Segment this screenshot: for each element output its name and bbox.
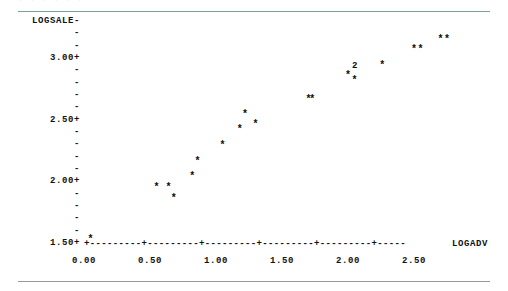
y-tick-minor: - (0, 189, 80, 199)
data-point: * (418, 45, 424, 55)
y-tick-minor: - (0, 226, 80, 236)
data-point: * (88, 235, 94, 245)
y-tick-minor: - (0, 164, 80, 174)
top-divider-rule (18, 11, 490, 12)
y-tick-minor: - (0, 201, 80, 211)
data-point: * (352, 76, 358, 86)
data-point: * (242, 110, 248, 120)
data-point: * (253, 120, 259, 130)
data-point: * (154, 183, 160, 193)
x-tick-label-2: 2.00 (336, 256, 360, 266)
data-point: * (195, 157, 201, 167)
data-point: * (444, 35, 450, 45)
y-tick-label-1-5: 1.50+ (0, 238, 80, 248)
y-tick-minor: - (0, 41, 80, 51)
x-tick-label-2-5: 2.50 (402, 256, 426, 266)
data-point: * (220, 141, 226, 151)
y-tick-minor: - (0, 127, 80, 137)
y-tick-minor: - (0, 139, 80, 149)
data-point: * (171, 194, 177, 204)
data-point: * (379, 61, 385, 71)
x-tick-label-0: 0.00 (72, 256, 96, 266)
y-tick-minor: - (0, 78, 80, 88)
data-point: * (189, 172, 195, 182)
character-scatter-plot: · · · · · · LOGSALE---3.00+----2.50+----… (0, 0, 508, 291)
clipped-header-text: · · · · · · (18, 0, 490, 3)
data-point: * (309, 95, 315, 105)
y-tick-label-2: 2.00+ (0, 176, 80, 186)
x-tick-label-1-5: 1.50 (270, 256, 294, 266)
y-tick-minor: - (0, 102, 80, 112)
data-point: * (345, 71, 351, 81)
y-tick-minor: - (0, 28, 80, 38)
y-tick-minor: - (0, 213, 80, 223)
bottom-divider-rule (18, 281, 490, 282)
y-axis-title: LOGSALE- (0, 16, 80, 26)
y-tick-minor: - (0, 152, 80, 162)
x-axis-tick-line: +---------+---------+---------+---------… (84, 239, 406, 249)
y-tick-label-2-5: 2.50+ (0, 115, 80, 125)
y-tick-label-3: 3.00+ (0, 53, 80, 63)
x-tick-label-1: 1.00 (204, 256, 228, 266)
y-tick-minor: - (0, 65, 80, 75)
data-point: * (237, 125, 243, 135)
x-tick-label-0-5: 0.50 (138, 256, 162, 266)
y-tick-minor: - (0, 90, 80, 100)
data-point-overplot: 2 (352, 61, 357, 70)
x-axis-title: LOGADV (452, 239, 488, 249)
data-point: * (411, 45, 417, 55)
data-point: * (437, 35, 443, 45)
